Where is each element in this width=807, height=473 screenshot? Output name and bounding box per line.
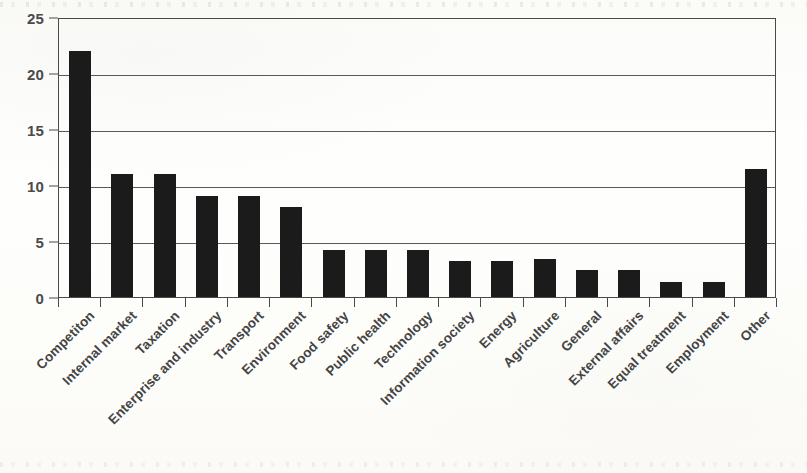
bar[interactable] (323, 250, 345, 297)
bar[interactable] (576, 270, 598, 297)
x-label-equal-treatment: Equal treatment (605, 308, 689, 392)
x-tick-mark (142, 298, 143, 307)
bar-slot (186, 19, 228, 297)
x-tick-mark (354, 298, 355, 307)
x-tick-mark (565, 298, 566, 307)
bar-slot (524, 19, 566, 297)
bar-slot (59, 19, 101, 297)
bar-slot (101, 19, 143, 297)
x-tick-mark (734, 298, 735, 307)
bar[interactable] (618, 270, 640, 297)
y-tick-mark-5 (49, 242, 58, 243)
x-tick-mark (692, 298, 693, 307)
bar[interactable] (280, 207, 302, 297)
bar-slot (693, 19, 735, 297)
x-tick-mark (480, 298, 481, 307)
bar[interactable] (196, 196, 218, 297)
bar[interactable] (703, 282, 725, 297)
plot-area (58, 18, 776, 298)
bar-slot (143, 19, 185, 297)
bar-slot (270, 19, 312, 297)
y-tick-mark-15 (49, 130, 58, 131)
y-tick-mark-20 (49, 74, 58, 75)
x-label-internal-market: Internal market (60, 308, 140, 388)
bar[interactable] (407, 250, 429, 297)
y-tick-mark-10 (49, 186, 58, 187)
bar[interactable] (491, 261, 513, 297)
x-tick-mark (311, 298, 312, 307)
y-tick-label-20: 20 (27, 66, 44, 83)
bar[interactable] (111, 174, 133, 297)
y-tick-label-25: 25 (27, 10, 44, 27)
x-tick-mark (649, 298, 650, 307)
bar-slot (397, 19, 439, 297)
y-tick-label-15: 15 (27, 122, 44, 139)
x-tick-mark (396, 298, 397, 307)
y-tick-mark-25 (49, 18, 58, 19)
bar-slot (608, 19, 650, 297)
bar[interactable] (69, 51, 91, 297)
bar[interactable] (660, 282, 682, 297)
bar[interactable] (449, 261, 471, 297)
bar-slot (439, 19, 481, 297)
x-tick-mark (269, 298, 270, 307)
x-tick-mark (523, 298, 524, 307)
bar-slot (735, 19, 777, 297)
bar[interactable] (365, 250, 387, 297)
y-tick-label-10: 10 (27, 178, 44, 195)
x-tick-mark (100, 298, 101, 307)
x-tick-mark (776, 298, 777, 307)
bar-slot (312, 19, 354, 297)
bar[interactable] (238, 196, 260, 297)
bars-group (59, 19, 775, 297)
bar-chart-figure: 0510152025 CompetitonInternal marketTaxa… (0, 0, 807, 473)
bar[interactable] (154, 174, 176, 297)
x-tick-mark (227, 298, 228, 307)
bar-slot (481, 19, 523, 297)
bar-slot (355, 19, 397, 297)
bar-slot (228, 19, 270, 297)
x-tick-mark (607, 298, 608, 307)
bar-slot (650, 19, 692, 297)
bar[interactable] (534, 259, 556, 297)
y-tick-label-5: 5 (35, 234, 44, 251)
x-tick-mark (58, 298, 59, 307)
bar-slot (566, 19, 608, 297)
y-tick-mark-0 (49, 298, 58, 299)
y-axis: 0510152025 (0, 18, 58, 298)
bar[interactable] (745, 169, 767, 297)
x-tick-mark (438, 298, 439, 307)
x-axis-category-labels: CompetitonInternal marketTaxationEnterpr… (58, 308, 776, 468)
x-tick-mark (185, 298, 186, 307)
y-tick-label-0: 0 (35, 290, 44, 307)
x-label-other: Other (737, 308, 773, 344)
x-label-external-affairs: External affairs (566, 308, 647, 389)
